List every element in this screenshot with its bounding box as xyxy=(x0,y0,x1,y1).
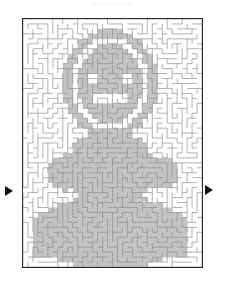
entrance-arrow-icon xyxy=(5,186,13,196)
page-title: Maze Puzzle xyxy=(0,1,225,8)
maze-grid[interactable] xyxy=(23,19,202,267)
maze-frame[interactable] xyxy=(22,18,203,268)
maze-page: Maze Puzzle xyxy=(0,0,225,283)
exit-arrow-icon xyxy=(205,185,213,195)
